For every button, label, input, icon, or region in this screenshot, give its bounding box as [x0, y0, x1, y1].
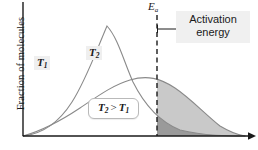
comparison-right-sub: 1 — [125, 106, 129, 115]
activation-energy-callout: Activation energy — [176, 11, 250, 43]
maxwell-boltzmann-distribution-figure: Fraction of molecules T1 T2 Ea Activatio… — [0, 0, 258, 150]
temperature-comparison-box: T2>T1 — [88, 98, 139, 119]
comparison-left-base: T — [98, 101, 105, 113]
curve-label-t1-sub: 1 — [44, 61, 48, 70]
activation-energy-symbol-base: E — [148, 0, 155, 12]
curve-label-t1: T1 — [34, 56, 50, 70]
activation-energy-callout-line1: Activation — [176, 13, 250, 26]
curve-label-t2-base: T — [89, 46, 96, 58]
comparison-operator: > — [108, 101, 118, 113]
x-axis-arrow-icon — [248, 132, 256, 140]
comparison-left-sub: 2 — [105, 106, 109, 115]
activation-energy-symbol-sub: a — [155, 6, 159, 14]
activation-energy-callout-line2: energy — [176, 26, 250, 39]
curve-label-t2-sub: 2 — [96, 51, 100, 60]
y-axis-title: Fraction of molecules — [15, 4, 26, 124]
activation-energy-symbol: Ea — [148, 1, 158, 13]
curve-label-t2: T2 — [86, 46, 102, 60]
curve-label-t1-base: T — [37, 56, 44, 68]
